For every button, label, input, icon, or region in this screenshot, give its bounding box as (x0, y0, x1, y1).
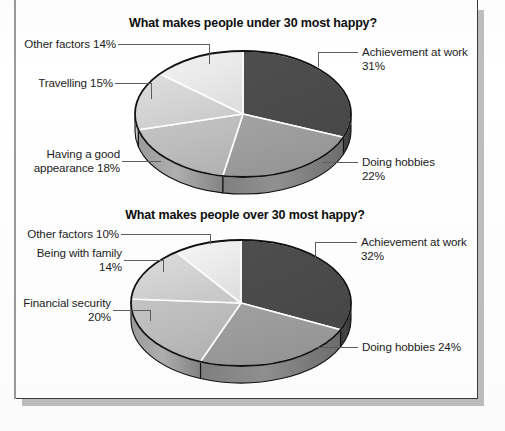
pie-chart-under-30: What makes people under 30 most happy? O… (0, 4, 478, 204)
pie-chart-over-30: What makes people over 30 most happy? Ot… (0, 198, 478, 398)
leader-travelling-v (151, 83, 152, 99)
label-travelling-under-30: Travelling 15% (0, 76, 113, 90)
label-hobbies-over-30: Doing hobbies 24% (362, 340, 478, 354)
leader-achievement-v (318, 52, 319, 67)
scanned-page: What makes people under 30 most happy? O… (0, 0, 505, 431)
leader-financial-h (113, 310, 151, 311)
leader-other-factors-2-v (210, 234, 211, 244)
leader-family-v (163, 260, 164, 272)
leader-achievement-2-h (315, 242, 357, 243)
leader-travelling-h (115, 83, 152, 84)
label-hobbies-under-30: Doing hobbies 22% (362, 155, 472, 182)
label-appearance-under-30: Having a good appearance 18% (0, 147, 120, 174)
leader-hobbies-2-h (318, 347, 358, 348)
label-achievement-under-30: Achievement at work 31% (362, 45, 480, 72)
leader-family-h (124, 260, 164, 261)
leader-achievement-h (318, 52, 358, 53)
leader-hobbies-h (322, 162, 358, 163)
leader-other-factors-2-h (121, 234, 211, 235)
leader-achievement-2-v (315, 242, 316, 258)
label-other-factors-over-30: Other factors 10% (0, 227, 119, 241)
label-family-over-30: Being with family 14% (0, 246, 122, 273)
leader-appearance-h (122, 161, 161, 162)
leader-financial-v (150, 310, 151, 321)
leader-other-factors-h (118, 44, 210, 45)
leader-other-factors-v (209, 44, 210, 64)
label-achievement-over-30: Achievement at work 32% (361, 235, 479, 262)
label-other-factors-under-30: Other factors 14% (0, 37, 116, 51)
label-financial-over-30: Financial security 20% (0, 296, 111, 323)
